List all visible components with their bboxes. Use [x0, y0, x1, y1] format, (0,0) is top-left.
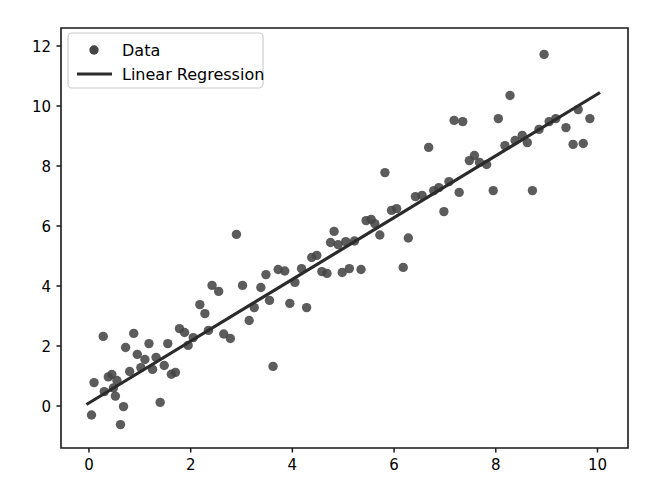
data-point — [238, 281, 247, 290]
data-point — [160, 361, 169, 370]
x-tick-label: 6 — [389, 456, 399, 474]
data-point — [268, 362, 277, 371]
data-point — [528, 186, 537, 195]
data-point — [116, 420, 125, 429]
data-point — [399, 263, 408, 272]
data-point — [171, 368, 180, 377]
data-point — [87, 410, 96, 419]
data-point — [119, 402, 128, 411]
y-tick-label: 8 — [41, 158, 51, 176]
data-point — [585, 114, 594, 123]
data-point — [505, 91, 514, 100]
data-point — [579, 139, 588, 148]
data-point — [133, 350, 142, 359]
data-point — [375, 230, 384, 239]
data-point — [214, 287, 223, 296]
x-tick-label: 8 — [491, 456, 501, 474]
data-point — [129, 329, 138, 338]
data-point — [155, 398, 164, 407]
x-tick-label: 4 — [288, 456, 298, 474]
data-point — [111, 391, 120, 400]
data-point — [329, 227, 338, 236]
data-point — [322, 269, 331, 278]
data-point — [356, 265, 365, 274]
x-tick-label: 10 — [588, 456, 607, 474]
matplotlib-figure: 0246810 024681012 DataLinear Regression — [0, 0, 646, 503]
data-point — [261, 270, 270, 279]
data-point — [439, 207, 448, 216]
data-point — [226, 334, 235, 343]
y-tick-label: 12 — [32, 38, 51, 56]
data-point — [561, 123, 570, 132]
data-point — [392, 204, 401, 213]
data-point — [244, 316, 253, 325]
legend-marker-circle-icon — [89, 45, 98, 54]
legend-label: Data — [122, 41, 160, 60]
data-point — [380, 168, 389, 177]
data-point — [449, 116, 458, 125]
data-point — [256, 283, 265, 292]
data-point — [89, 378, 98, 387]
scatter-plot-canvas: 0246810 024681012 DataLinear Regression — [0, 0, 646, 503]
x-tick-label: 2 — [186, 456, 196, 474]
data-point — [404, 233, 413, 242]
data-point — [302, 303, 311, 312]
data-point — [200, 309, 209, 318]
legend[interactable]: DataLinear Regression — [68, 33, 264, 88]
data-point — [458, 117, 467, 126]
data-point — [454, 188, 463, 197]
data-point — [163, 339, 172, 348]
data-point — [140, 355, 149, 364]
y-tick-label: 2 — [41, 338, 51, 356]
data-point — [99, 332, 108, 341]
y-tick-label: 6 — [41, 218, 51, 236]
data-point — [424, 143, 433, 152]
data-point — [144, 339, 153, 348]
data-point — [494, 114, 503, 123]
legend-label: Linear Regression — [122, 65, 264, 84]
data-point — [195, 300, 204, 309]
data-point — [568, 140, 577, 149]
data-point — [121, 343, 130, 352]
data-point — [539, 50, 548, 59]
data-point — [489, 186, 498, 195]
data-point — [285, 299, 294, 308]
y-tick-label: 10 — [32, 98, 51, 116]
data-point — [232, 230, 241, 239]
y-tick-label: 4 — [41, 278, 51, 296]
y-tick-label: 0 — [41, 398, 51, 416]
data-point — [312, 251, 321, 260]
data-point — [280, 266, 289, 275]
data-point — [180, 328, 189, 337]
x-tick-label: 0 — [84, 456, 94, 474]
data-point — [345, 264, 354, 273]
